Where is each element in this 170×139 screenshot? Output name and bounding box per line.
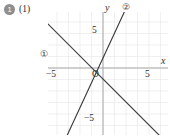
problem-number-badge: 1 — [4, 4, 15, 15]
y-axis-label: y — [105, 3, 109, 13]
line-2-tag: ② — [122, 3, 130, 12]
figure-root: 1 (1) — [0, 0, 170, 139]
line-1-tag: ① — [40, 50, 48, 59]
origin-label: O — [92, 70, 99, 80]
problem-sub-label: (1) — [19, 5, 30, 15]
grid-lines — [48, 12, 168, 135]
coordinate-plane: 5 −5 −5 5 O y x ① ② — [48, 12, 168, 135]
x-axis-label: x — [161, 56, 165, 66]
y-tick-label-neg5: −5 — [84, 114, 94, 124]
graph-svg — [48, 12, 168, 135]
axes — [48, 12, 168, 135]
problem-header: 1 (1) — [4, 4, 30, 15]
x-tick-label-5: 5 — [145, 70, 150, 80]
y-tick-label-5: 5 — [92, 26, 97, 36]
x-tick-label-neg5: −5 — [46, 70, 56, 80]
